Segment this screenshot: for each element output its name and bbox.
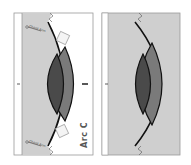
right-panel: [102, 13, 180, 155]
diagram: Chord Arm Chord Arm Arc C: [0, 0, 191, 165]
arc-label: Arc C: [80, 122, 89, 148]
left-panel: Chord Arm Chord Arm Arc C: [14, 13, 93, 155]
